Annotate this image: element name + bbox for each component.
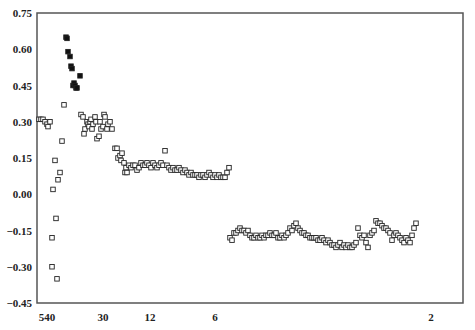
open-square-marker [108,120,113,125]
filled-square-marker [70,66,75,71]
open-square-marker [120,151,125,156]
y-tick-label: 0.15 [13,152,33,164]
open-square-marker [93,115,98,120]
open-square-marker [55,277,60,282]
open-square-marker [46,124,51,129]
plot-frame [37,13,463,303]
open-square-marker [246,228,251,233]
x-tick-label: 6 [212,311,218,323]
open-square-marker [412,226,417,231]
open-square-marker [110,127,115,132]
open-square-marker [51,187,56,192]
open-square-marker [105,127,110,132]
open-square-marker [366,245,371,250]
open-square-marker [60,139,65,144]
open-square-marker [48,120,53,125]
open-square-marker [58,170,63,175]
open-square-marker [294,221,299,226]
open-square-marker [50,236,55,241]
x-tick-label: 30 [98,311,110,323]
open-square-marker [410,233,415,238]
open-square-marker [125,170,130,175]
open-square-marker [98,120,103,125]
open-square-marker [90,127,95,132]
y-tick-label: −0.15 [6,225,32,237]
open-square-marker [56,178,61,183]
filled-square-marker [68,54,73,59]
open-square-marker [103,115,108,120]
open-square-marker [362,233,367,238]
open-square-marker [354,240,359,245]
open-square-marker [230,238,235,243]
y-tick-label: 0.00 [13,188,33,200]
open-square-marker [390,238,395,243]
y-tick-label: 0.75 [13,7,33,19]
y-tick-label: 0.60 [13,43,33,55]
open-square-marker [274,231,279,236]
y-axis-ticks: 0.750.600.450.300.150.00−0.15−0.30−0.45 [6,7,32,309]
x-tick-label: 12 [145,311,157,323]
x-tick-label: 540 [39,311,56,323]
open-square-marker [364,240,369,245]
open-square-marker [414,221,419,226]
open-square-marker [53,158,58,163]
open-square-marker [97,134,102,139]
open-square-marker [225,170,230,175]
x-axis-ticks: 540301262 [39,311,435,323]
filled-square-marker [78,74,83,79]
open-square-marker [82,132,87,137]
scatter-chart: 0.750.600.450.300.150.00−0.15−0.30−0.45 … [0,0,475,330]
open-square-marker [163,149,168,154]
filled-square-marker [75,86,80,91]
filled-square-marker [65,36,70,41]
open-square-marker [223,175,228,180]
y-tick-label: 0.45 [13,80,33,92]
open-square-marker [356,226,361,231]
open-square-marker [62,103,67,108]
data-points [37,35,419,281]
x-tick-label: 2 [428,311,434,323]
y-tick-label: 0.30 [13,116,33,128]
open-square-marker [50,265,55,270]
open-square-marker [122,161,127,166]
open-square-marker [54,216,59,221]
open-square-marker [81,115,86,120]
y-tick-label: −0.30 [6,261,32,273]
open-square-marker [290,228,295,233]
open-square-marker [372,228,377,233]
open-square-marker [408,240,413,245]
filled-square-marker [66,49,71,54]
open-square-marker [227,165,232,170]
y-tick-label: −0.45 [6,297,32,309]
open-square-marker [115,146,120,151]
